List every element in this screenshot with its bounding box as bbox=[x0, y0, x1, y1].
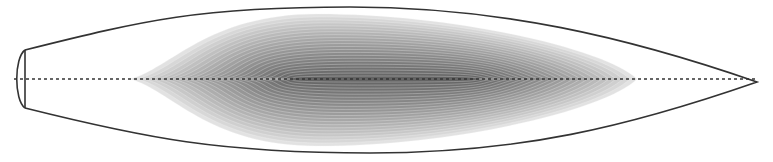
streamlined-body-diagram bbox=[0, 0, 773, 162]
diagram-canvas bbox=[0, 0, 773, 162]
shaded-pressure-region bbox=[130, 14, 637, 146]
